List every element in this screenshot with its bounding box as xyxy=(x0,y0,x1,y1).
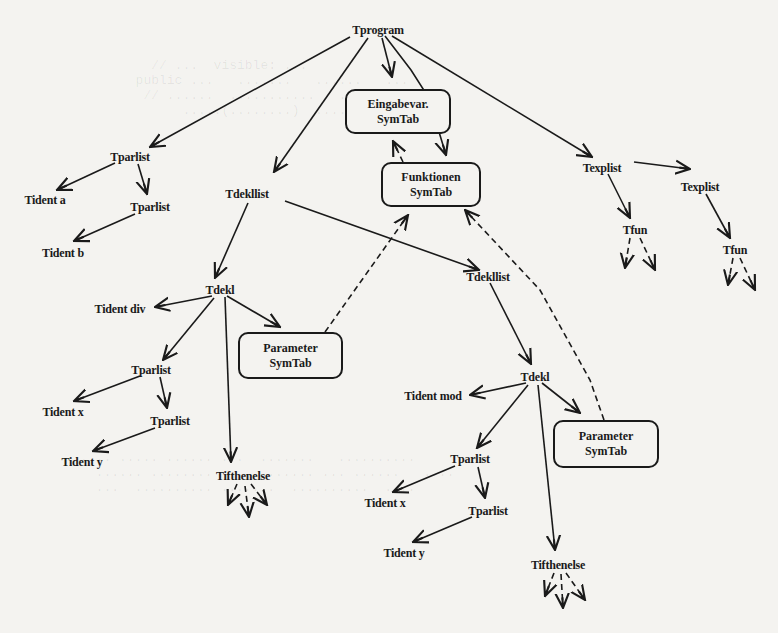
tree-node-tparlist3: Tparlist xyxy=(131,364,171,376)
tree-node-tident_y1: Tident y xyxy=(61,456,102,468)
symtab-box-eingabe: Eingabevar.SymTab xyxy=(345,89,451,134)
edge-arrow xyxy=(285,201,479,270)
edge-arrow xyxy=(215,203,248,278)
tree-node-tparlist2: Tparlist xyxy=(130,201,170,213)
dashed-reference-arrow xyxy=(728,258,733,285)
tree-node-texplist1: Texplist xyxy=(583,162,622,174)
dashed-reference-arrow xyxy=(740,258,755,290)
symtab-label: SymTab xyxy=(585,444,627,459)
edge-arrow xyxy=(150,37,350,147)
tree-node-tfun2: Tfun xyxy=(723,244,748,256)
dashed-reference-arrow xyxy=(561,574,563,608)
tree-node-tparlist4: Tparlist xyxy=(150,415,190,427)
symtab-box-funktionen: FunktionenSymTab xyxy=(381,162,481,207)
edge-arrow xyxy=(138,164,147,194)
tree-node-tident_div: Tident div xyxy=(95,303,146,315)
diagram-canvas: // ... visible: ... public ... ....... .… xyxy=(0,0,778,633)
dashed-reference-arrow xyxy=(545,573,554,596)
symtab-title: Parameter xyxy=(263,341,318,356)
tree-node-tident_mod: Tident mod xyxy=(404,390,461,402)
symtab-title: Eingabevar. xyxy=(367,97,428,112)
symtab-title: Funktionen xyxy=(401,170,460,185)
edge-arrow xyxy=(225,297,231,462)
edge-arrow xyxy=(393,466,455,492)
edge-arrow xyxy=(478,467,485,498)
tree-node-tparlist1: Tparlist xyxy=(110,151,150,163)
edge-arrow xyxy=(93,428,155,451)
edge-arrow xyxy=(155,296,212,307)
edge-arrow xyxy=(74,376,140,401)
dashed-reference-arrow xyxy=(566,573,585,600)
edge-arrow xyxy=(227,296,280,327)
tree-node-tdekllist1: Tdekllist xyxy=(225,188,269,200)
tree-node-tident_y2: Tident y xyxy=(383,547,424,559)
tree-node-tifthen2: Tifthenelse xyxy=(531,559,585,571)
tree-node-tident_x1: Tident x xyxy=(42,406,83,418)
edge-arrow xyxy=(413,517,472,542)
symtab-label: SymTab xyxy=(377,112,419,127)
tree-node-tdekllist2: Tdekllist xyxy=(466,271,510,283)
tree-node-tifthen1: Tifthenelse xyxy=(216,470,270,482)
edge-arrow xyxy=(706,194,730,238)
symtab-label: SymTab xyxy=(410,185,452,200)
symtab-label: SymTab xyxy=(269,356,311,371)
edge-arrow xyxy=(490,283,531,364)
edge-arrow xyxy=(538,385,555,550)
dashed-reference-arrow xyxy=(465,210,604,420)
tree-node-tfun1: Tfun xyxy=(623,224,648,236)
edge-arrow xyxy=(477,385,528,448)
tree-node-texplist2: Texplist xyxy=(681,181,720,193)
tree-node-tprogram: Tprogram xyxy=(352,24,404,36)
symtab-box-param1: ParameterSymTab xyxy=(238,332,343,379)
edge-arrow xyxy=(470,383,526,395)
symtab-box-param2: ParameterSymTab xyxy=(553,420,659,468)
tree-node-tparlist5: Tparlist xyxy=(450,453,490,465)
dashed-reference-arrow xyxy=(640,238,655,270)
dashed-reference-arrow xyxy=(245,486,249,517)
edge-arrow xyxy=(608,174,630,218)
dashed-reference-arrow xyxy=(251,484,267,505)
dashed-reference-arrow xyxy=(325,215,408,332)
tree-node-tparlist6: Tparlist xyxy=(468,505,508,517)
edge-arrow xyxy=(542,383,580,413)
edge-arrow xyxy=(74,214,135,241)
tree-node-tdekl1: Tdekl xyxy=(205,284,234,296)
dashed-reference-arrow xyxy=(625,238,630,268)
tree-node-tident_a: Tident a xyxy=(24,194,65,206)
tree-node-tident_x2: Tident x xyxy=(364,497,405,509)
edge-arrow xyxy=(163,298,214,360)
edge-arrow xyxy=(160,377,167,408)
symtab-title: Parameter xyxy=(579,429,634,444)
tree-node-tident_b: Tident b xyxy=(42,247,84,259)
dashed-reference-arrow xyxy=(393,141,403,162)
dashed-reference-arrow xyxy=(228,484,237,505)
edge-arrow xyxy=(634,162,690,169)
tree-node-tdekl2: Tdekl xyxy=(520,371,549,383)
edge-arrow xyxy=(57,163,115,190)
